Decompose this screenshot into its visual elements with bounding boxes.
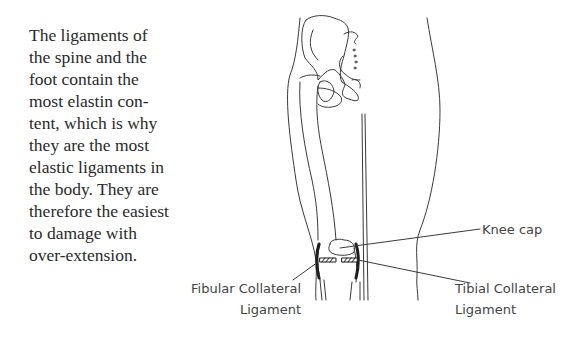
leader-line-tibial (358, 260, 470, 283)
leg-outline-right (417, 18, 440, 300)
inner-thigh-line (362, 114, 364, 300)
tibia-right (350, 282, 352, 300)
femoral-head (318, 81, 334, 102)
label-knee-cap: Knee cap (482, 219, 542, 240)
leader-line-knee-cap (340, 229, 480, 248)
leg-outline-left (288, 18, 317, 300)
fibular-collateral-ligament (317, 244, 319, 278)
femur-shaft-left (300, 82, 318, 240)
pelvis-outline (302, 16, 359, 101)
patella (329, 239, 355, 255)
femur-shaft-right (317, 86, 336, 240)
label-fibular-collateral: Fibular Collateral Ligament (186, 278, 301, 320)
label-tibial-collateral: Tibial Collateral Ligament (455, 278, 556, 320)
fibula-left (320, 280, 322, 300)
